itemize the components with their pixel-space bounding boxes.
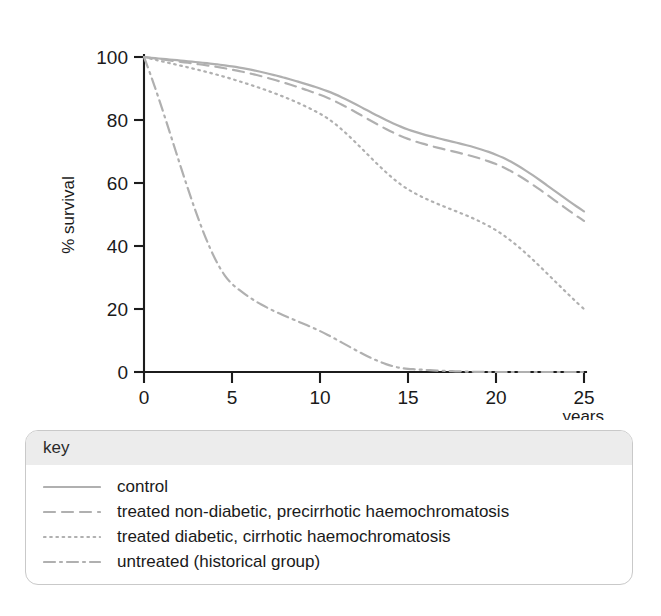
legend-item: control [43, 474, 632, 499]
axis-lines [144, 55, 586, 372]
y-axis-tick-labels: 100 80 60 40 20 0 [96, 47, 128, 383]
legend-line-swatch-dotted [43, 530, 101, 544]
plot-area: 100 80 60 40 20 0 0 5 10 15 [0, 0, 661, 420]
legend-item-label: untreated (historical group) [117, 552, 320, 572]
x-tick-label: 15 [397, 387, 418, 408]
x-tick-label: 25 [573, 387, 594, 408]
legend-line-swatch-dashed [43, 505, 101, 519]
legend-header: key [26, 431, 632, 465]
legend-line-swatch-dash-dot [43, 555, 101, 569]
legend-line-swatch-solid [43, 480, 101, 494]
plot-svg: 100 80 60 40 20 0 0 5 10 15 [0, 0, 661, 420]
series-line-0 [144, 57, 584, 211]
legend-item: untreated (historical group) [43, 549, 632, 574]
y-tick-label: 60 [107, 173, 128, 194]
x-tick-label: 5 [227, 387, 238, 408]
legend-item: treated diabetic, cirrhotic haemochromat… [43, 524, 632, 549]
y-axis-title: % survival [59, 176, 78, 253]
legend-item-label: control [117, 477, 168, 497]
series-line-1 [144, 57, 584, 221]
series-line-2 [144, 57, 584, 309]
x-tick-label: 10 [309, 387, 330, 408]
legend-title: key [43, 438, 69, 458]
legend-box: key controltreated non-diabetic, precirr… [25, 430, 633, 585]
y-tick-label: 20 [107, 299, 128, 320]
x-tick-label: 0 [139, 387, 150, 408]
x-axis-tick-labels: 0 5 10 15 20 25 [139, 387, 595, 408]
legend-item-label: treated non-diabetic, precirrhotic haemo… [117, 502, 509, 522]
legend-body: controltreated non-diabetic, precirrhoti… [26, 465, 632, 574]
y-axis-ticks [134, 57, 144, 372]
y-tick-label: 40 [107, 236, 128, 257]
x-axis-title: years [562, 407, 604, 420]
y-tick-label: 100 [96, 47, 128, 68]
y-tick-label: 0 [117, 362, 128, 383]
legend-item: treated non-diabetic, precirrhotic haemo… [43, 499, 632, 524]
series-line-3 [144, 57, 584, 372]
data-curves [144, 57, 584, 372]
legend-item-label: treated diabetic, cirrhotic haemochromat… [117, 527, 451, 547]
x-tick-label: 20 [485, 387, 506, 408]
y-tick-label: 80 [107, 110, 128, 131]
survival-chart-figure: 100 80 60 40 20 0 0 5 10 15 [0, 0, 661, 616]
x-axis-ticks [144, 372, 584, 383]
